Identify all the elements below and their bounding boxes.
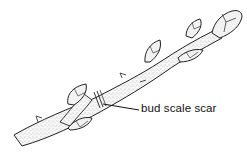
twig-diagram: bud scale scar bbox=[0, 0, 247, 157]
terminal-bud bbox=[212, 11, 242, 38]
stem bbox=[14, 30, 222, 146]
twig-illustration bbox=[0, 0, 247, 157]
bud-scale-scar-label: bud scale scar bbox=[141, 102, 217, 114]
lateral-bud-upper bbox=[186, 19, 201, 38]
lateral-bud-middle bbox=[145, 40, 161, 62]
